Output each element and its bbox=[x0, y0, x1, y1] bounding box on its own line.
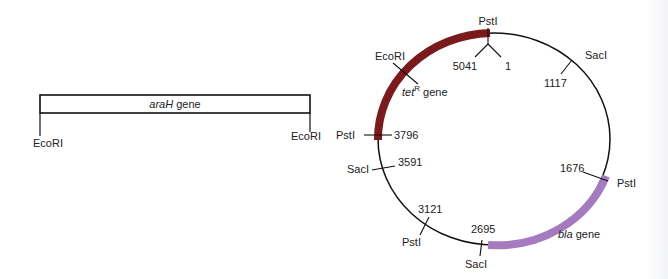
svg-text:1117: 1117 bbox=[544, 77, 567, 89]
right-ecori-label: EcoRI bbox=[291, 130, 321, 142]
svg-text:SacI: SacI bbox=[465, 258, 487, 270]
svg-text:1676: 1676 bbox=[560, 162, 584, 174]
left-ecori-label: EcoRI bbox=[33, 137, 63, 149]
plasmid-map: PstI 5041 1 EcoRI tetR gene SacI 1117 16… bbox=[336, 15, 636, 270]
tet-gene-label: tetR gene bbox=[402, 84, 448, 98]
svg-text:SacI: SacI bbox=[347, 163, 369, 175]
svg-text:SacI: SacI bbox=[585, 49, 607, 61]
right-edge-shadow bbox=[646, 0, 668, 279]
bla-gene-label: bla gene bbox=[558, 228, 600, 240]
svg-text:PstI: PstI bbox=[336, 129, 355, 141]
origin-left-position: 5041 bbox=[453, 60, 477, 72]
svg-text:PstI: PstI bbox=[402, 236, 421, 248]
svg-text:3796: 3796 bbox=[394, 129, 418, 141]
diagram-canvas: araH gene EcoRI EcoRI PstI 5041 1 EcoRI … bbox=[0, 0, 668, 279]
origin-site: PstI 5041 1 bbox=[453, 15, 511, 72]
svg-text:EcoRI: EcoRI bbox=[375, 50, 405, 62]
origin-psti-label: PstI bbox=[479, 15, 498, 27]
arah-gene-label: araH gene bbox=[149, 98, 200, 110]
site-saci-1117: SacI 1117 bbox=[544, 49, 607, 89]
svg-text:3591: 3591 bbox=[398, 156, 422, 168]
svg-text:3121: 3121 bbox=[418, 203, 442, 215]
origin-right-position: 1 bbox=[505, 60, 511, 72]
arah-fragment: araH gene EcoRI EcoRI bbox=[33, 95, 321, 149]
svg-text:2695: 2695 bbox=[471, 223, 495, 235]
site-saci-3591: SacI 3591 bbox=[347, 156, 422, 175]
svg-text:PstI: PstI bbox=[617, 177, 636, 189]
